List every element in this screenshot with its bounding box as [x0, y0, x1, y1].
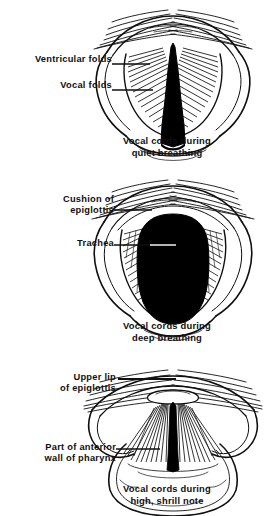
label-part-of-anterior-wall-of-pharynx: Part of anterior wall of pharynx	[2, 442, 116, 465]
label-cushion-of-epiglottis: Cushion of epiglottis	[4, 194, 114, 217]
label-upper-lip-of-epiglottis: Upper lip of epiglottis	[4, 372, 116, 395]
glottis-opening	[167, 402, 179, 472]
right-pharyngeal-wall	[216, 222, 252, 316]
figure-high-shrill-note: Upper lip of epiglottis Part of anterior…	[0, 352, 274, 516]
left-fold-hatching	[124, 404, 168, 462]
left-pharyngeal-wall	[94, 222, 130, 316]
label-trachea: Trachea	[4, 238, 114, 249]
right-pharyngeal-wall	[220, 52, 250, 136]
glottis-opening	[137, 214, 209, 324]
glottis-opening	[161, 43, 185, 147]
figure-deep-breathing: Cushion of epiglottis Trachea Vocal cord…	[0, 172, 274, 352]
figure-quiet-breathing: Ventricular folds Vocal folds Vocal cord…	[0, 0, 274, 172]
caption-high-shrill-note: Vocal cords during high, shrill note	[92, 483, 242, 507]
right-fold-hatching	[178, 404, 222, 462]
label-vocal-folds: Vocal folds	[4, 80, 112, 91]
caption-deep-breathing: Vocal cords during deep breathing	[92, 320, 242, 344]
caption-quiet-breathing: Vocal cords during quiet breathing	[92, 135, 242, 159]
label-ventricular-folds: Ventricular folds	[4, 54, 112, 65]
